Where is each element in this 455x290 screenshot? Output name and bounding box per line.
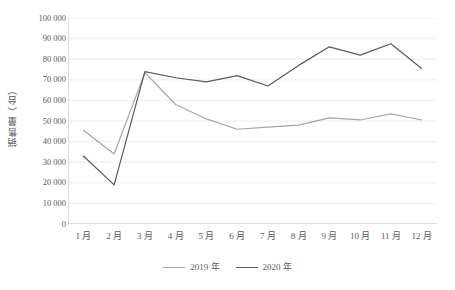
y-tick-label: 50 000 [20, 117, 66, 126]
y-tick-label: 20 000 [20, 178, 66, 187]
x-tick-label: 7 月 [260, 230, 276, 242]
x-tick-label: 2 月 [106, 230, 122, 242]
x-tick-label: 6 月 [229, 230, 245, 242]
legend-line-icon [163, 267, 185, 268]
legend-line-icon [236, 267, 258, 268]
y-tick-label: 10 000 [20, 199, 66, 208]
y-tick-label: 80 000 [20, 55, 66, 64]
plot-area [68, 18, 437, 224]
gridlines [68, 18, 437, 224]
x-tick-label: 11 月 [381, 230, 401, 242]
legend-entry[interactable]: 2020 年 [236, 262, 292, 272]
series-line [83, 44, 421, 185]
x-tick-label: 1 月 [76, 230, 92, 242]
y-axis-title-label: 销售量（台） [6, 84, 20, 147]
chart-legend: 2019 年2020 年 [0, 262, 455, 272]
legend-label: 2020 年 [263, 262, 292, 272]
x-tick-label: 10 月 [350, 230, 370, 242]
sales-line-chart: 销售量（台） 100 00090 00080 00070 00060 00050… [0, 0, 455, 290]
y-tick-label: 90 000 [20, 34, 66, 43]
x-tick-label: 12 月 [412, 230, 432, 242]
y-tick-label: 0 [20, 220, 66, 229]
y-tick-label: 40 000 [20, 137, 66, 146]
x-tick-label: 3 月 [137, 230, 153, 242]
y-axis-tick-labels: 100 00090 00080 00070 00060 00050 00040 … [20, 0, 66, 290]
legend-entry[interactable]: 2019 年 [163, 262, 219, 272]
x-axis-tick-labels: 1 月2 月3 月4 月5 月6 月7 月8 月9 月10 月11 月12 月 [68, 230, 437, 250]
y-tick-label: 30 000 [20, 158, 66, 167]
y-tick-label: 60 000 [20, 96, 66, 105]
x-tick-label: 5 月 [199, 230, 215, 242]
x-tick-label: 4 月 [168, 230, 184, 242]
x-tick-label: 9 月 [322, 230, 338, 242]
x-tick-label: 8 月 [291, 230, 307, 242]
y-tick-label: 70 000 [20, 75, 66, 84]
series-lines [83, 44, 421, 185]
plot-svg [68, 18, 437, 224]
y-tick-label: 100 000 [20, 14, 66, 23]
legend-label: 2019 年 [190, 262, 219, 272]
